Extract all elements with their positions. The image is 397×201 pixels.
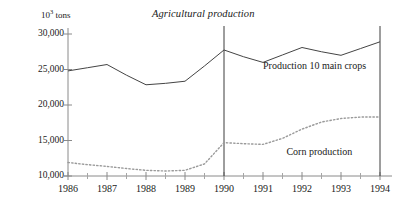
y-axis-tick-label: 10,000 — [20, 171, 64, 181]
y-axis-unit-label: 103 tons — [41, 9, 71, 20]
x-axis-tick-label: 1986 — [48, 184, 88, 194]
chart-title: Agricultural production — [152, 9, 255, 20]
corn-series-label: Corn production — [286, 147, 352, 157]
x-axis-tick-label: 1992 — [282, 184, 322, 194]
x-axis-tick-label: 1987 — [87, 184, 127, 194]
y-axis-tick-label: 15,000 — [20, 136, 64, 146]
y-axis-tick-label: 30,000 — [20, 29, 64, 39]
main-crops-series-label: Production 10 main crops — [263, 61, 366, 71]
x-axis-tick-label: 1994 — [360, 184, 397, 194]
y-axis-tick-label: 25,000 — [20, 65, 64, 75]
y-axis-unit-suffix: tons — [53, 10, 70, 20]
agricultural-production-chart: 103 tons Agricultural production 10,0001… — [0, 0, 397, 201]
x-axis-tick-label: 1989 — [165, 184, 205, 194]
x-axis-tick-label: 1988 — [126, 184, 166, 194]
y-axis-tick-label: 20,000 — [20, 100, 64, 110]
x-axis-tick-label: 1993 — [321, 184, 361, 194]
x-axis-tick-label: 1990 — [204, 184, 244, 194]
x-axis-tick-label: 1991 — [243, 184, 283, 194]
y-axis-unit-base: 10 — [41, 10, 50, 20]
